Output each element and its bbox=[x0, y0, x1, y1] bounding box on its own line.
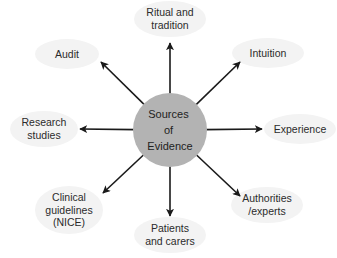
node-label-experience: Experience bbox=[274, 123, 327, 135]
center-node: Sources of Evidence bbox=[133, 93, 207, 167]
node-label-audit: Audit bbox=[55, 48, 79, 60]
node-label-line: guidelines bbox=[45, 204, 92, 216]
node-label-line: /experts bbox=[248, 205, 285, 217]
arrow-to-clinical bbox=[103, 154, 145, 193]
node-label-line: Experience bbox=[274, 123, 327, 135]
node-label-research: Researchstudies bbox=[22, 116, 67, 141]
node-label-authorities: Authorities/experts bbox=[242, 192, 292, 217]
arrow-to-experience bbox=[205, 129, 262, 130]
center-label-line-2: of bbox=[164, 124, 174, 136]
center-label-line-1: Sources bbox=[148, 108, 189, 120]
node-label-line: Audit bbox=[55, 48, 79, 60]
arrow-to-research bbox=[80, 129, 135, 130]
arrow-to-audit bbox=[101, 62, 145, 105]
node-label-ritual: Ritual andtradition bbox=[146, 6, 193, 31]
node-label-line: Clinical bbox=[52, 191, 86, 203]
node-label-line: Research bbox=[22, 116, 67, 128]
node-label-line: Ritual and bbox=[146, 6, 193, 18]
node-label-line: tradition bbox=[151, 19, 189, 31]
arrow-to-authorities bbox=[195, 154, 240, 196]
node-label-line: (NICE) bbox=[53, 216, 85, 228]
center-label-line-3: Evidence bbox=[147, 140, 192, 152]
node-label-line: Patients bbox=[151, 222, 189, 234]
node-label-line: and carers bbox=[145, 235, 195, 247]
node-label-line: Intuition bbox=[250, 47, 287, 59]
arrow-to-intuition bbox=[195, 62, 240, 106]
node-label-line: studies bbox=[27, 129, 60, 141]
node-label-line: Authorities bbox=[242, 192, 292, 204]
node-label-patients: Patientsand carers bbox=[145, 222, 195, 247]
node-label-intuition: Intuition bbox=[250, 47, 287, 59]
sources-of-evidence-diagram: Sources of Evidence Ritual andtraditionI… bbox=[0, 0, 337, 258]
